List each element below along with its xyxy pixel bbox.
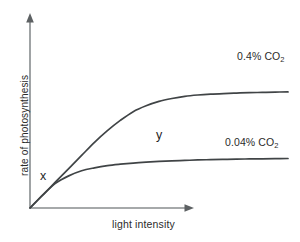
series-label-low-value: 0.04% bbox=[225, 136, 255, 148]
up-arrow-icon bbox=[26, 13, 34, 23]
series-label-low-gas: CO bbox=[258, 136, 274, 148]
series-label-high-gas: CO bbox=[264, 50, 280, 62]
photosynthesis-light-intensity-chart: rate of photosynthesis light intensity 0… bbox=[0, 0, 300, 242]
series-label-low-subscript: 2 bbox=[274, 141, 278, 150]
curve-high-co2 bbox=[30, 92, 288, 208]
series-label-high-co2: 0.4% CO2 bbox=[237, 51, 285, 62]
x-axis-label: light intensity bbox=[112, 219, 175, 230]
y-axis-label: rate of photosynthesis bbox=[20, 75, 30, 176]
annotation-marker-x: x bbox=[40, 170, 46, 183]
series-label-high-subscript: 2 bbox=[280, 55, 284, 64]
series-label-low-co2: 0.04% CO2 bbox=[225, 137, 279, 148]
curve-low-co2 bbox=[30, 159, 288, 208]
series-label-high-value: 0.4% bbox=[237, 50, 261, 62]
right-arrow-icon bbox=[185, 204, 195, 212]
annotation-marker-y: y bbox=[156, 129, 162, 142]
chart-canvas bbox=[0, 0, 300, 242]
